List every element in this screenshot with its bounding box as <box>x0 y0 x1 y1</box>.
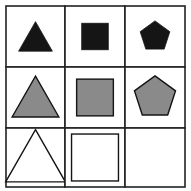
square-shape <box>77 79 114 116</box>
puzzle-grid <box>0 0 191 191</box>
square-shape <box>82 23 109 50</box>
grid-cell <box>125 128 185 187</box>
square-shape <box>72 134 119 181</box>
